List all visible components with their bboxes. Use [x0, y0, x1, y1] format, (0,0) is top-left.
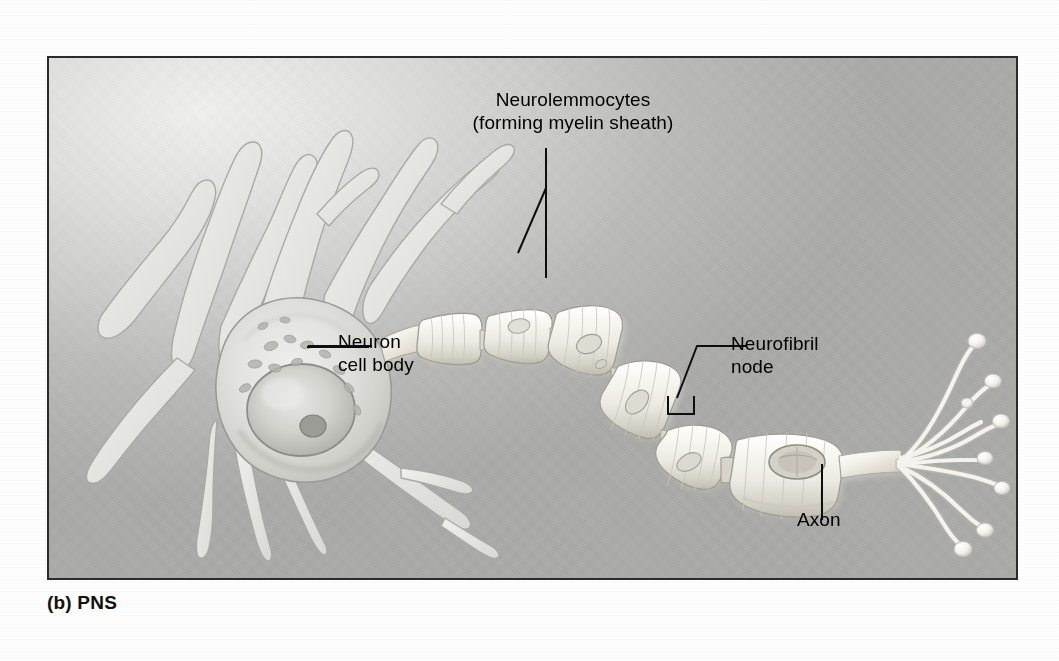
- leader-lines-overlay: [49, 58, 1018, 580]
- label-axon: Axon: [797, 508, 841, 531]
- figure-frame: [47, 56, 1018, 580]
- label-neuron-cell-body: Neuron cell body: [338, 330, 414, 376]
- label-neurofibril-node: Neurofibril node: [731, 332, 819, 378]
- label-neurolemmocytes: Neurolemmocytes (forming myelin sheath): [423, 88, 723, 134]
- page-canvas: Neurolemmocytes (forming myelin sheath) …: [0, 0, 1059, 661]
- figure-caption: (b) PNS: [47, 592, 117, 614]
